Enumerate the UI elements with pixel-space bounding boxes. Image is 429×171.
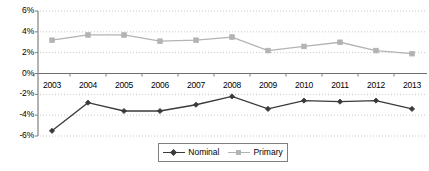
x-axis-tick-label: 2008 [215,80,249,90]
data-point-primary [86,33,91,38]
x-axis-tick-label: 2009 [251,80,285,90]
data-point-primary [230,35,235,40]
data-point-primary [158,39,163,44]
data-point-primary [302,44,307,49]
data-point-nominal [121,108,126,113]
data-point-nominal [373,98,378,103]
legend-marker-primary-icon [228,148,250,157]
legend-entry-nominal[interactable]: Nominal [163,147,219,157]
data-point-nominal [193,102,198,107]
data-point-nominal [265,106,270,111]
x-axis-tick-label: 2006 [143,80,177,90]
y-axis-tick-label: 6% [0,5,34,15]
x-axis-tick-label: 2012 [359,80,393,90]
x-axis-tick-label: 2007 [179,80,213,90]
x-axis-tick-label: 2004 [71,80,105,90]
chart-container: Nominal Primary 6%4%2%0%-2%-4%-6%2003200… [0,0,429,171]
x-axis-tick-label: 2013 [395,80,429,90]
x-axis-tick-label: 2005 [107,80,141,90]
data-point-primary [338,40,343,45]
legend-label-nominal: Nominal [188,147,219,157]
x-axis-tick-label: 2003 [35,80,69,90]
x-axis-tick-label: 2011 [323,80,357,90]
data-point-primary [122,33,127,38]
data-point-primary [194,38,199,43]
legend-label-primary: Primary [253,147,282,157]
data-point-primary [266,48,271,53]
legend-marker-nominal-icon [163,148,185,157]
data-point-nominal [229,94,234,99]
data-point-nominal [409,106,414,111]
y-axis-tick-label: 4% [0,26,34,36]
y-axis-tick-label: -6% [0,130,34,140]
data-point-nominal [301,98,306,103]
data-point-nominal [337,99,342,104]
series-line-nominal [52,96,412,130]
x-axis-tick-label: 2010 [287,80,321,90]
data-point-nominal [157,108,162,113]
y-axis-tick-label: 0% [0,68,34,78]
data-point-primary [50,38,55,43]
data-point-primary [374,48,379,53]
legend-entry-primary[interactable]: Primary [228,147,282,157]
data-point-primary [410,51,415,56]
y-axis-tick-label: 2% [0,47,34,57]
y-axis-tick-label: -2% [0,88,34,98]
chart-legend: Nominal Primary [158,143,288,162]
y-axis-tick-label: -4% [0,109,34,119]
